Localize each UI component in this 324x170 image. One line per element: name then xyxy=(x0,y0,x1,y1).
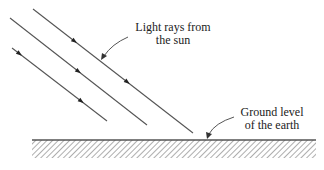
sun-label-pointer-arrow xyxy=(104,37,128,56)
ray-3 xyxy=(12,48,107,121)
diagram-canvas: Light rays from the sun Ground level of … xyxy=(0,0,324,170)
label-pointers xyxy=(101,37,234,139)
sun-pointer-arrowhead-icon xyxy=(101,53,107,60)
sun-rays-label-line-2: the sun xyxy=(132,34,214,47)
ground-label-pointer-arrow xyxy=(209,117,234,134)
sun-rays-label: Light rays from the sun xyxy=(132,21,214,47)
ground-label-line-2: of the earth xyxy=(236,119,308,132)
ground-surface xyxy=(32,140,316,158)
ground-level-label: Ground level of the earth xyxy=(236,106,308,132)
ground-hatching xyxy=(32,140,316,158)
ground-pointer-arrowhead-icon xyxy=(206,132,212,139)
